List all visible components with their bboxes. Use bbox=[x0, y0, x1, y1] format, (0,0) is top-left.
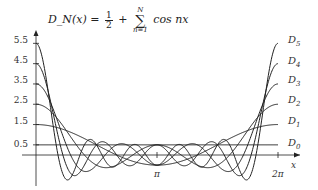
curve-d3 bbox=[36, 84, 278, 172]
legend-d2-main: D bbox=[288, 94, 296, 105]
x-axis-arrow-icon bbox=[294, 153, 300, 158]
axes bbox=[22, 30, 300, 186]
ytick-0.5: 0.5 bbox=[0, 139, 28, 149]
formula-frac-num: 1 bbox=[105, 11, 113, 21]
legend-d3-sub: 3 bbox=[296, 80, 300, 88]
legend-d4-sub: 4 bbox=[296, 61, 300, 69]
formula-plus: + bbox=[118, 13, 127, 26]
legend-d1: D1 bbox=[288, 115, 301, 129]
ytick-4.5: 4.5 bbox=[0, 55, 28, 65]
ytick-1.5: 1.5 bbox=[0, 116, 28, 126]
legend-d4: D4 bbox=[288, 55, 301, 69]
y-axis-arrow-icon bbox=[34, 30, 39, 36]
ytick-5.5: 5.5 bbox=[0, 35, 28, 45]
formula-frac-den: 2 bbox=[105, 21, 113, 30]
xtick-pi: π bbox=[154, 169, 160, 179]
legend-d1-sub: 1 bbox=[296, 121, 300, 129]
ytick-3.5: 3.5 bbox=[0, 75, 28, 85]
formula-lhs: D_N(x) = bbox=[48, 13, 99, 26]
legend-d2: D2 bbox=[288, 94, 301, 108]
chart-title-formula: D_N(x) = 1 2 + N ∑ n=1 cos nx bbox=[48, 6, 188, 34]
legend-d5: D5 bbox=[288, 34, 301, 48]
legend-d3: D3 bbox=[288, 74, 301, 88]
legend-d5-sub: 5 bbox=[296, 40, 300, 48]
sum-symbol-icon: ∑ bbox=[133, 14, 148, 26]
legend-d0-sub: 0 bbox=[296, 143, 300, 151]
x-axis-label: x bbox=[291, 160, 296, 170]
legend-d3-main: D bbox=[288, 74, 296, 85]
legend-d0-main: D bbox=[288, 137, 296, 148]
formula-term: cos nx bbox=[153, 13, 188, 26]
legend-d2-sub: 2 bbox=[296, 100, 300, 108]
legend-d5-main: D bbox=[288, 34, 296, 45]
plot-curves bbox=[36, 43, 278, 180]
xtick-2pi: 2π bbox=[272, 169, 284, 179]
ytick-2.5: 2.5 bbox=[0, 95, 28, 105]
legend-d0: D0 bbox=[288, 137, 301, 151]
formula-sum-lower: n=1 bbox=[133, 26, 148, 34]
legend-d1-main: D bbox=[288, 115, 296, 126]
legend-d4-main: D bbox=[288, 55, 296, 66]
